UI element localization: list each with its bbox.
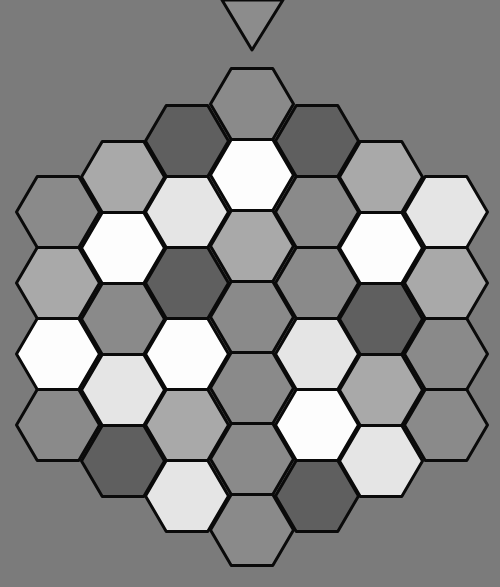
hex-game-board [0, 0, 500, 587]
down-triangle-icon [222, 0, 283, 50]
hex-grid-canvas [0, 0, 500, 587]
hex-cells [17, 69, 488, 566]
